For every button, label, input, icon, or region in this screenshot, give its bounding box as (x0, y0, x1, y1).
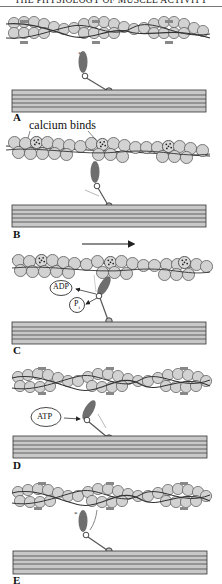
myosin-hinge (83, 532, 89, 538)
actin-filament (12, 254, 213, 280)
calcium-binds-annotation: calcium binds (29, 118, 96, 133)
thick-filament (13, 551, 207, 574)
myosin-hinge (94, 183, 100, 189)
panel-label-b: B (13, 228, 20, 240)
prior-position-line (94, 275, 96, 292)
phosphate-release-arrow (86, 298, 97, 304)
myosin-hinge (96, 293, 102, 299)
panel-a: * (6, 16, 210, 112)
prior-position-line (85, 190, 99, 196)
panel-b (6, 131, 210, 227)
atp-label: ATP (37, 411, 52, 421)
prior-position-line (90, 510, 97, 530)
thick-filament (12, 90, 206, 112)
actin-filament (6, 131, 210, 164)
myosin-neck (87, 78, 109, 91)
phosphate-label: Pi (74, 299, 80, 310)
phosphate-subscript: i (78, 305, 79, 310)
thick-filament (12, 205, 206, 227)
thick-filament (13, 436, 207, 458)
myosin-head (91, 161, 100, 183)
panel-label-a: A (13, 111, 21, 123)
myosin-head (79, 510, 88, 532)
cross-bridge-cycle-diagram: * (0, 0, 222, 584)
panel-c (12, 244, 213, 344)
adp-label: ADP (53, 282, 69, 291)
myosin-neck (88, 537, 107, 550)
panel-label-c: C (13, 344, 21, 356)
panel-e: * (12, 482, 212, 574)
panel-label-d: D (13, 459, 21, 471)
myosin-head (79, 51, 88, 73)
myosin-hinge (84, 417, 90, 423)
myosin-neck (89, 422, 107, 437)
actin-filament (6, 16, 210, 44)
asterisk-marker: * (74, 510, 78, 518)
thick-filament (12, 322, 206, 344)
adp-release-arrow (76, 289, 96, 294)
actin-filament (12, 367, 212, 395)
prior-position-line (98, 414, 106, 428)
actin-filament (12, 482, 212, 510)
myosin-neck (98, 188, 108, 205)
myosin-neck (100, 298, 108, 320)
atp-binding-arrow (64, 418, 80, 419)
panel-label-e: E (13, 574, 20, 584)
